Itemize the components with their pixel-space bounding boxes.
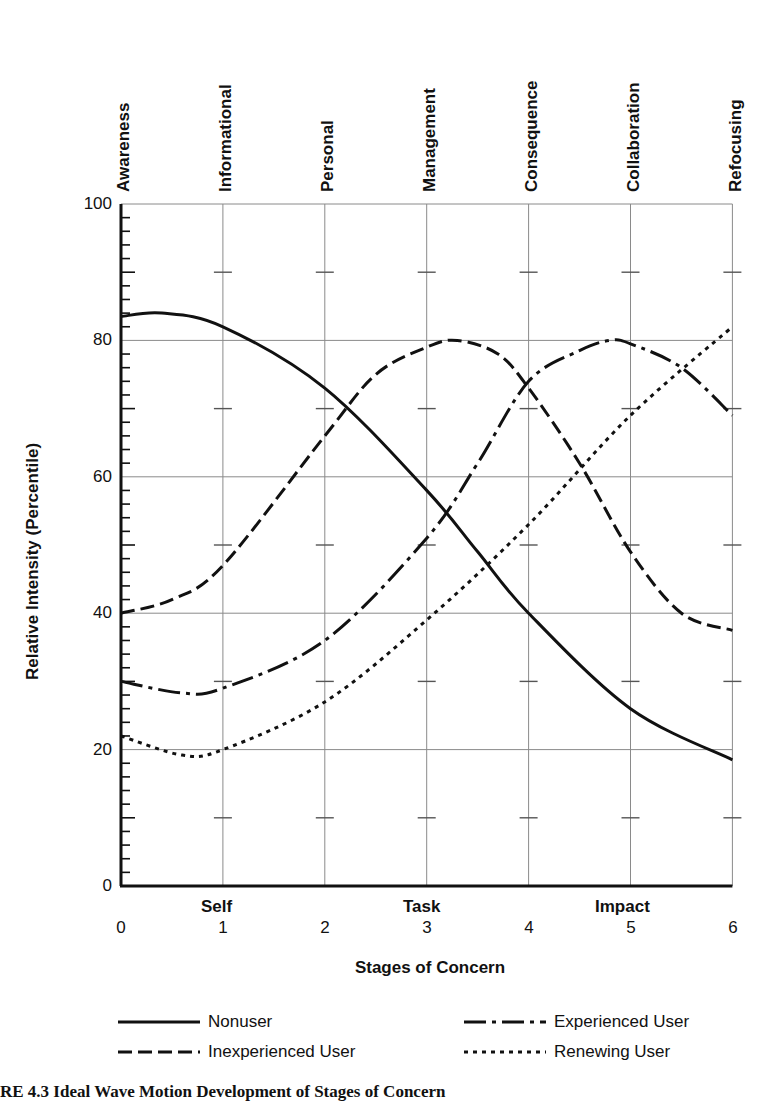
dashed-line-icon	[118, 1049, 200, 1055]
legend-label-nonuser: Nonuser	[208, 1012, 272, 1032]
solid-line-icon	[118, 1019, 200, 1025]
legend-item-inexperienced: Inexperienced User	[118, 1042, 355, 1062]
stage-label-awareness: Awareness	[114, 103, 134, 192]
y-tick-60: 60	[72, 467, 112, 487]
y-axis-title: Relative Intensity (Percentile)	[23, 443, 43, 680]
x-tick-2: 2	[310, 918, 340, 938]
stage-label-personal: Personal	[318, 120, 338, 192]
stage-label-informational: Informational	[216, 84, 236, 192]
stage-label-management: Management	[420, 88, 440, 192]
x-axis-title: Stages of Concern	[0, 958, 779, 978]
y-tick-0: 0	[72, 876, 112, 896]
y-tick-40: 40	[72, 603, 112, 623]
x-tick-4: 4	[514, 918, 544, 938]
legend-item-nonuser: Nonuser	[118, 1012, 272, 1032]
legend-label-renewing: Renewing User	[554, 1042, 670, 1062]
x-tick-3: 3	[412, 918, 442, 938]
group-label-impact: Impact	[595, 897, 650, 917]
dotted-line-icon	[464, 1049, 546, 1055]
axis-ticks	[121, 218, 741, 873]
y-tick-80: 80	[72, 330, 112, 350]
legend-label-inexperienced: Inexperienced User	[208, 1042, 355, 1062]
x-tick-1: 1	[208, 918, 238, 938]
legend-item-experienced: Experienced User	[464, 1012, 689, 1032]
x-tick-5: 5	[616, 918, 646, 938]
stage-label-collaboration: Collaboration	[624, 82, 644, 192]
figure-caption: RE 4.3 Ideal Wave Motion Development of …	[0, 1082, 445, 1102]
y-tick-20: 20	[72, 740, 112, 760]
stage-label-refocusing: Refocusing	[726, 99, 746, 192]
group-label-task: Task	[403, 897, 441, 917]
x-tick-0: 0	[106, 918, 136, 938]
y-tick-100: 100	[72, 194, 112, 214]
dash-dot-line-icon	[464, 1019, 546, 1025]
group-label-self: Self	[201, 897, 232, 917]
legend-label-experienced: Experienced User	[554, 1012, 689, 1032]
legend-item-renewing: Renewing User	[464, 1042, 670, 1062]
stage-label-consequence: Consequence	[522, 81, 542, 192]
x-tick-6: 6	[718, 918, 748, 938]
